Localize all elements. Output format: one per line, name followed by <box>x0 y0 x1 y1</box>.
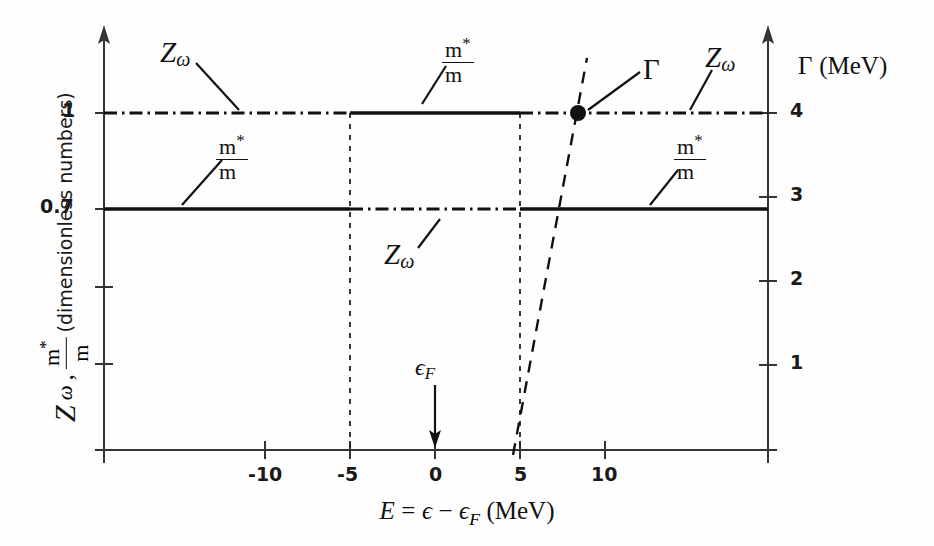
annotation-z-right-omega: ω <box>721 53 735 75</box>
annotation-m-left-num: m <box>219 134 236 159</box>
x-label-F-subscript: F <box>469 509 480 529</box>
annotation-m-star-left: m* m <box>216 132 248 183</box>
leader-z-omega-middle <box>418 219 440 248</box>
annotation-z-omega-top-left: Zω <box>160 38 190 69</box>
annotation-z-right-Z: Z <box>705 41 721 73</box>
figure-canvas: 1 0.7 4 3 2 1 -10 -5 0 5 10 Γ (MeV) Zω, … <box>0 0 934 546</box>
x-label-minus: − <box>438 497 452 524</box>
x-tick-10: 10 <box>591 465 617 484</box>
annotation-m-left-star: * <box>236 131 245 150</box>
left-axis <box>98 25 110 455</box>
y-left-axis-label: Zω, m* m (dimensionless numbers) <box>36 22 94 492</box>
y-left-label-mstar-over-m: m* m <box>36 337 94 369</box>
y-right-tick-3: 3 <box>790 185 803 204</box>
annotation-m-center-num: m <box>445 37 462 62</box>
y-left-label-star: * <box>36 340 55 349</box>
series-z-omega <box>104 113 768 209</box>
x-label-equals: = <box>401 497 415 524</box>
annotation-epsilon-f: ϵF <box>415 355 435 382</box>
leader-z-omega-left <box>196 63 239 110</box>
annotation-m-right-den: m <box>674 160 706 183</box>
annotation-z-mid-omega: ω <box>400 250 414 272</box>
annotation-z-left-omega: ω <box>176 48 190 70</box>
annotation-epsilon-f-subscript: F <box>425 364 435 383</box>
leader-gamma <box>588 72 640 110</box>
x-axis-label: E = ϵ − ϵF (MeV) <box>0 496 934 530</box>
x-label-epsilon: ϵ <box>422 497 432 524</box>
x-tick-0: 0 <box>429 465 442 484</box>
annotation-m-star-center: m* m <box>442 35 474 86</box>
gamma-marker-point <box>570 105 586 121</box>
y-right-tick-2: 2 <box>790 269 803 288</box>
y-left-label-mstar-num: m <box>39 349 64 366</box>
annotation-m-star-right: m* m <box>674 132 706 183</box>
x-tick-minus10: -10 <box>248 465 282 484</box>
annotation-z-omega-middle: Zω <box>384 240 414 271</box>
right-axis <box>762 25 774 455</box>
x-tick-5: 5 <box>514 465 527 484</box>
annotation-m-left-den: m <box>216 160 248 183</box>
annotation-m-center-star: * <box>462 34 471 53</box>
gamma-symbol: Γ <box>798 52 812 79</box>
annotation-m-right-num: m <box>677 134 694 159</box>
annotation-gamma-symbol: Γ <box>643 53 660 85</box>
x-label-unit: (MeV) <box>486 497 554 524</box>
x-label-epsilon-F: ϵ <box>459 497 469 524</box>
y-left-label-Z: Z <box>48 405 82 422</box>
y-right-tick-1: 1 <box>790 353 803 372</box>
series-m-star-over-m <box>104 113 768 209</box>
x-tick-minus5: -5 <box>337 465 358 484</box>
leader-z-omega-right <box>690 70 712 110</box>
annotation-z-mid-Z: Z <box>384 238 400 270</box>
annotation-m-right-star: * <box>694 131 703 150</box>
epsilon-f-arrow <box>429 385 441 448</box>
y-left-label-m-den: m <box>67 337 94 369</box>
annotation-epsilon-symbol: ϵ <box>415 354 425 380</box>
annotation-z-left-Z: Z <box>160 36 176 68</box>
annotation-m-center-den: m <box>442 63 474 86</box>
y-left-label-parenthetical: (dimensionless numbers) <box>54 92 76 332</box>
annotation-gamma: Γ <box>643 55 660 84</box>
leader-lines <box>182 63 712 248</box>
y-right-axis-unit: (MeV) <box>819 52 887 79</box>
y-right-tick-4: 4 <box>790 101 803 120</box>
x-label-E: E <box>380 497 395 524</box>
y-left-label-omega: ω <box>52 386 77 401</box>
y-right-axis-label: Γ (MeV) <box>798 52 887 79</box>
y-left-label-comma: , <box>50 374 80 381</box>
annotation-z-omega-top-right: Zω <box>705 43 735 74</box>
